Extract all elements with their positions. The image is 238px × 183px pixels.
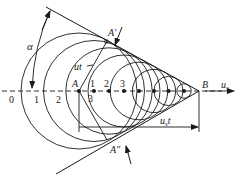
left-tick-1: 1 xyxy=(34,94,39,105)
source-label: A xyxy=(71,78,79,89)
wave-radius-line-lower xyxy=(79,91,107,140)
angle-arc-start xyxy=(42,11,50,30)
right-tick-3: 3 xyxy=(120,78,125,89)
wave-radius-label: ut xyxy=(74,61,82,72)
angle-label: α xyxy=(27,40,33,52)
left-tick-0: 0 xyxy=(9,94,14,105)
ut-pointer xyxy=(87,65,93,66)
angle-arc xyxy=(32,11,50,88)
lower-mach-line xyxy=(56,91,199,174)
left-tick-2: 2 xyxy=(56,94,61,105)
right-tick-2: 2 xyxy=(104,78,109,89)
travel-label: ust xyxy=(160,115,171,128)
right-tick-1: 1 xyxy=(90,78,95,89)
axis-label: us xyxy=(221,79,229,92)
upper-tangent-label: A′ xyxy=(107,27,117,38)
mach-cone-diagram: α A′ A″ ut A B us ust 0 1 2 1 2 3 3 xyxy=(0,0,238,183)
lower-tangent-label: A″ xyxy=(109,144,121,155)
lower-shock-pointer xyxy=(126,146,131,164)
apex-label: B xyxy=(202,79,208,90)
below-tick-3: 3 xyxy=(88,93,93,104)
